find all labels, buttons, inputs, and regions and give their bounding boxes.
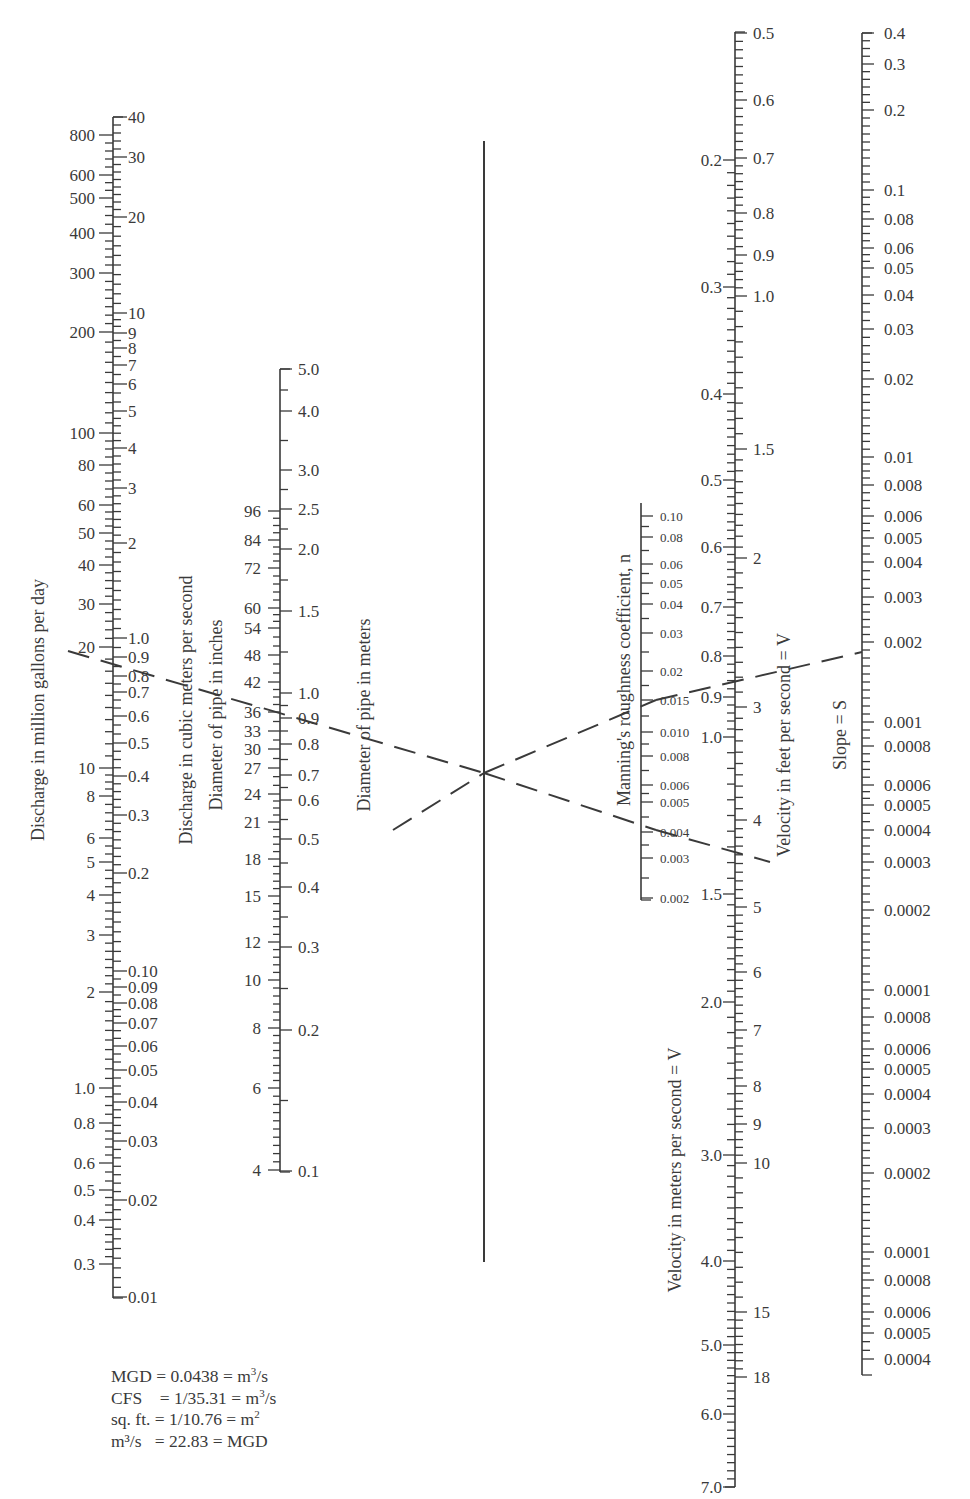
vfps-tick-label: 15 — [753, 1303, 770, 1322]
vfps-tick-label: 7 — [753, 1021, 762, 1040]
mgd-tick-label: 80 — [78, 456, 95, 475]
cms-tick-label: 0.04 — [128, 1093, 158, 1112]
inch-tick-label: 6 — [253, 1079, 262, 1098]
mgd-tick-label: 0.4 — [74, 1211, 96, 1230]
n-tick-label: 0.08 — [660, 530, 683, 545]
cms-tick-label: 2 — [128, 534, 137, 553]
cms-tick-label: 30 — [128, 148, 145, 167]
slope-tick-label: 0.04 — [884, 286, 914, 305]
inch-tick-label: 10 — [244, 971, 261, 990]
mgd-tick-label: 60 — [78, 496, 95, 515]
vfps-tick-label: 1.0 — [753, 287, 774, 306]
inch-tick-label: 54 — [244, 619, 262, 638]
cms-tick-label: 0.7 — [128, 683, 150, 702]
vfps-tick-label: 1.5 — [753, 440, 774, 459]
axis-title-cms: Discharge in cubic meters per second — [176, 575, 196, 844]
axis-title-manning: Manning's roughness coefficient, n — [614, 554, 634, 806]
slope-tick-label: 0.0004 — [884, 821, 931, 840]
cms-tick-label: 4 — [128, 439, 137, 458]
inch-tick-label: 36 — [244, 703, 261, 722]
vms-tick-label: 0.8 — [701, 647, 722, 666]
mgd-tick-label: 300 — [70, 264, 96, 283]
meter-tick-label: 3.0 — [298, 461, 319, 480]
slope-tick-label: 0.006 — [884, 507, 922, 526]
conversion-row: m³/s = 22.83 = MGD — [111, 1431, 276, 1453]
slope-tick-label: 0.005 — [884, 529, 922, 548]
meter-tick-label: 0.8 — [298, 735, 319, 754]
vfps-tick-label: 2 — [753, 549, 762, 568]
mgd-tick-label: 50 — [78, 524, 95, 543]
mgd-tick-label: 1.0 — [74, 1079, 95, 1098]
slope-tick-label: 0.0004 — [884, 1350, 931, 1369]
vms-tick-label: 5.0 — [701, 1336, 722, 1355]
slope-tick-label: 0.0002 — [884, 1164, 931, 1183]
cms-tick-label: 40 — [128, 108, 145, 127]
slope-tick-label: 0.02 — [884, 370, 914, 389]
vfps-tick-label: 6 — [753, 963, 762, 982]
cms-tick-label: 0.9 — [128, 648, 149, 667]
conversion-row: MGD = 0.0438 = m3/s — [111, 1366, 276, 1388]
inch-tick-label: 48 — [244, 646, 261, 665]
inch-tick-label: 72 — [244, 559, 261, 578]
cms-tick-label: 0.08 — [128, 994, 158, 1013]
cms-tick-label: 0.05 — [128, 1061, 158, 1080]
vms-tick-label: 3.0 — [701, 1146, 722, 1165]
cms-tick-label: 0.6 — [128, 707, 149, 726]
vfps-tick-label: 0.5 — [753, 24, 774, 43]
meter-tick-label: 0.1 — [298, 1162, 319, 1181]
n-tick-label: 0.02 — [660, 664, 683, 679]
inch-tick-label: 84 — [244, 531, 262, 550]
mgd-tick-label: 10 — [78, 759, 95, 778]
inch-tick-label: 27 — [244, 759, 262, 778]
slope-tick-label: 0.0001 — [884, 1243, 931, 1262]
cms-tick-label: 7 — [128, 356, 137, 375]
meter-tick-label: 0.2 — [298, 1021, 319, 1040]
n-tick-label: 0.05 — [660, 576, 683, 591]
slope-tick-label: 0.1 — [884, 181, 905, 200]
cms-tick-label: 20 — [128, 208, 145, 227]
cms-tick-label: 0.5 — [128, 734, 149, 753]
slope-tick-label: 0.0001 — [884, 981, 931, 1000]
inch-tick-label: 30 — [244, 740, 261, 759]
inch-tick-label: 33 — [244, 722, 261, 741]
slope-tick-label: 0.01 — [884, 448, 914, 467]
vms-tick-label: 0.2 — [701, 151, 722, 170]
vms-tick-label: 6.0 — [701, 1405, 722, 1424]
nomograph: 8006005004003002001008060504030201086543… — [0, 0, 970, 1499]
slope-tick-label: 0.0005 — [884, 1324, 931, 1343]
axis-title-slope: Slope = S — [830, 700, 850, 770]
axes-group: 8006005004003002001008060504030201086543… — [28, 24, 931, 1497]
solution-dashed-line — [393, 773, 484, 830]
meter-tick-label: 2.0 — [298, 540, 319, 559]
slope-tick-label: 0.06 — [884, 239, 914, 258]
slope-tick-label: 0.0006 — [884, 776, 931, 795]
meter-tick-label: 0.5 — [298, 830, 319, 849]
inch-tick-label: 12 — [244, 933, 261, 952]
inch-tick-label: 24 — [244, 785, 262, 804]
n-tick-label: 0.10 — [660, 509, 683, 524]
conversion-notes: MGD = 0.0438 = m3/s CFS = 1/35.31 = m3/s… — [111, 1366, 276, 1452]
mgd-tick-label: 2 — [87, 983, 96, 1002]
meter-tick-label: 1.0 — [298, 684, 319, 703]
cms-tick-label: 0.01 — [128, 1288, 158, 1307]
meter-tick-label: 0.7 — [298, 766, 320, 785]
mgd-tick-label: 200 — [70, 323, 96, 342]
slope-tick-label: 0.003 — [884, 588, 922, 607]
slope-tick-label: 0.008 — [884, 476, 922, 495]
n-tick-label: 0.002 — [660, 891, 689, 906]
mgd-tick-label: 500 — [70, 189, 96, 208]
meter-tick-label: 0.6 — [298, 791, 319, 810]
n-tick-label: 0.010 — [660, 725, 689, 740]
conversion-row: sq. ft. = 1/10.76 = m2 — [111, 1409, 276, 1431]
cms-tick-label: 0.07 — [128, 1014, 158, 1033]
slope-tick-label: 0.0008 — [884, 737, 931, 756]
inch-tick-label: 60 — [244, 599, 261, 618]
inch-tick-label: 18 — [244, 850, 261, 869]
cms-tick-label: 0.4 — [128, 767, 150, 786]
vms-tick-label: 2.0 — [701, 993, 722, 1012]
cms-tick-label: 5 — [128, 402, 137, 421]
mgd-tick-label: 5 — [87, 853, 96, 872]
n-tick-label: 0.005 — [660, 795, 689, 810]
vms-tick-label: 0.5 — [701, 471, 722, 490]
meter-tick-label: 4.0 — [298, 402, 319, 421]
